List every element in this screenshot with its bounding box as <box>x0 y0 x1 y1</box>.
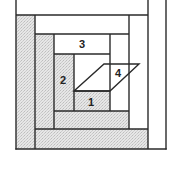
ring2-bottom-shaded-strip <box>54 111 129 129</box>
label-1: 1 <box>88 96 94 108</box>
outer-bottom-shaded-strip <box>35 129 148 149</box>
label-3: 3 <box>79 38 85 50</box>
ring2-left-shaded-strip <box>35 34 54 129</box>
outer-top-strip <box>16 0 166 15</box>
ring2-right-strip <box>129 34 148 129</box>
log-cabin-diagram: 3 2 4 1 <box>0 0 172 172</box>
ring2-top-strip <box>35 15 148 34</box>
outer-left-shaded-strip <box>16 15 35 149</box>
label-4: 4 <box>115 67 122 79</box>
outer-right-strip <box>148 0 166 149</box>
label-2: 2 <box>60 74 66 86</box>
